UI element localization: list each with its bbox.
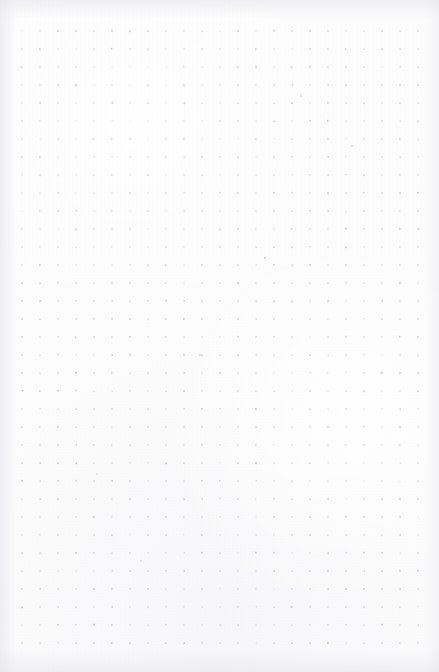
paper-background <box>0 0 439 672</box>
dot-grid-page: Dot Grid Page <box>0 0 439 672</box>
